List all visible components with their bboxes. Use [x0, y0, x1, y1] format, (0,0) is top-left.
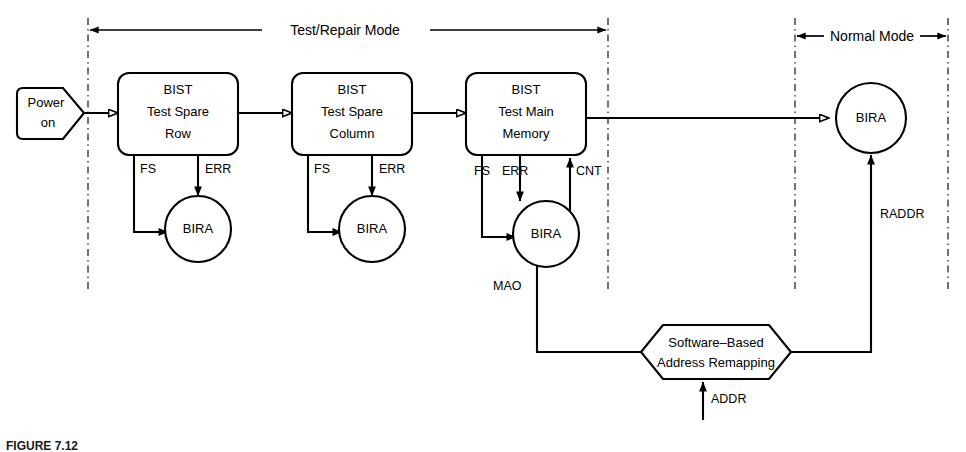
bist1-line1: BIST [164, 82, 193, 97]
signal-label-fs2: FS [314, 162, 330, 176]
edge-mao [537, 266, 655, 352]
signal-label-mao: MAO [493, 279, 522, 293]
signal-label-err3: ERR [502, 164, 528, 178]
bist3-line2: Test Main [498, 104, 554, 119]
bist3-line3: Memory [503, 126, 550, 141]
signal-label-err2: ERR [379, 162, 405, 176]
power-on-label-line1: Power [28, 95, 66, 110]
signal-label-cnt3: CNT [576, 164, 602, 178]
bist2-line1: BIST [338, 82, 367, 97]
region-label-normal: Normal Mode [830, 28, 914, 44]
edge-raddr [791, 155, 871, 352]
signal-label-raddr: RADDR [880, 207, 924, 221]
software-address-remapping-node[interactable] [641, 325, 791, 379]
figure-caption: FIGURE 7.12 [6, 440, 78, 452]
signal-label-addr: ADDR [711, 392, 746, 406]
remap-line2: Address Remapping [657, 355, 775, 370]
remap-line1: Software–Based [668, 335, 763, 350]
figure-canvas: Test/Repair Mode Normal Mode Power on BI… [0, 0, 966, 452]
bist2-line2: Test Spare [321, 104, 383, 119]
bist1-line3: Row [165, 126, 192, 141]
bist1-line2: Test Spare [147, 104, 209, 119]
signal-label-fs1: FS [140, 162, 156, 176]
signal-label-fs3: FS [474, 164, 490, 178]
bira4-label: BIRA [856, 110, 887, 125]
signal-label-err1: ERR [205, 162, 231, 176]
power-on-label-line2: on [41, 115, 55, 130]
bira2-label: BIRA [357, 221, 388, 236]
region-label-test-repair: Test/Repair Mode [290, 22, 400, 38]
bist3-line1: BIST [512, 82, 541, 97]
bira3-label: BIRA [531, 226, 562, 241]
block-diagram: Test/Repair Mode Normal Mode Power on BI… [0, 0, 966, 452]
bira1-label: BIRA [183, 221, 214, 236]
bist2-line3: Column [330, 126, 375, 141]
